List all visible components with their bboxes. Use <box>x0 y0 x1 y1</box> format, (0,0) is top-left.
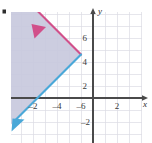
y-tick-label-2: 2 <box>83 81 88 91</box>
y-tick-label-6: 6 <box>83 33 88 43</box>
coordinate-plane-svg: –6 –4 –2 2 6 4 2 –2 x y <box>0 0 152 143</box>
y-axis-label: y <box>97 6 102 16</box>
x-tick-label--6: –6 <box>76 101 87 111</box>
y-axis-arrow-icon <box>90 8 95 14</box>
scan-artifact-mark <box>3 10 7 14</box>
y-tick-label-4: 4 <box>83 57 88 67</box>
graph-figure: –6 –4 –2 2 6 4 2 –2 x y <box>0 0 152 143</box>
x-axis-label: x <box>142 99 147 109</box>
x-tick-label--2: –2 <box>28 101 38 111</box>
x-tick-label-2: 2 <box>115 101 120 111</box>
blue-ray-arrow-icon <box>12 119 25 132</box>
x-tick-label--4: –4 <box>52 101 63 111</box>
y-tick-label--2: –2 <box>80 117 90 127</box>
